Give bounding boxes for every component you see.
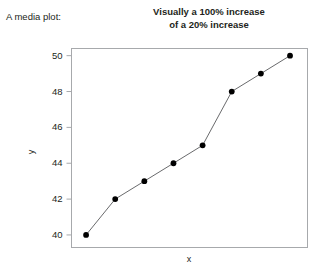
data-point [287, 53, 293, 59]
data-point [141, 178, 147, 184]
y-axis-tick-label: 44 [52, 157, 63, 168]
y-axis-tick-label: 42 [52, 193, 63, 204]
data-point [229, 89, 235, 95]
data-point [112, 196, 118, 202]
y-axis-tick-marks [67, 56, 72, 235]
y-axis-tick-label: 50 [52, 50, 63, 61]
data-point [258, 71, 264, 77]
y-axis-tick-label: 40 [52, 229, 63, 240]
x-axis-label: x [187, 254, 192, 264]
y-axis-tick-label: 46 [52, 121, 63, 132]
plot-frame [72, 49, 308, 248]
y-axis-label: y [26, 149, 36, 154]
data-point [171, 160, 177, 166]
plot-svg: 404244464850 y x [0, 0, 323, 270]
data-point [200, 142, 206, 148]
scatter-line-plot: 404244464850 y x [0, 0, 323, 270]
y-axis-tick-label: 48 [52, 86, 63, 97]
y-axis-tick-labels: 404244464850 [52, 50, 63, 240]
data-point [83, 232, 89, 238]
